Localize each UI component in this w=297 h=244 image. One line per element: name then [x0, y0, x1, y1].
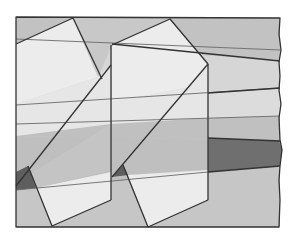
geometric-diagram — [0, 0, 297, 244]
